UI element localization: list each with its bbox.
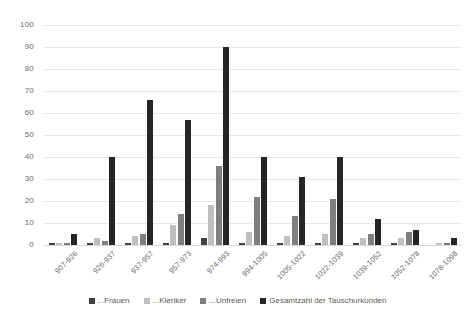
bar bbox=[353, 243, 359, 245]
bar bbox=[87, 243, 93, 245]
y-axis-tick-label: 10 bbox=[25, 219, 34, 227]
bars-layer bbox=[44, 25, 462, 245]
bar bbox=[254, 197, 260, 245]
bar bbox=[299, 177, 305, 245]
y-axis: 0102030405060708090100 bbox=[0, 25, 40, 245]
x-axis-tick-label: 1078-1098 bbox=[427, 249, 459, 281]
bar bbox=[216, 166, 222, 245]
x-axis-tick-label: 1005-1022 bbox=[275, 249, 307, 281]
bar bbox=[261, 157, 267, 245]
bar bbox=[147, 100, 153, 245]
bar bbox=[125, 243, 131, 245]
bar bbox=[239, 243, 245, 245]
bar bbox=[71, 234, 77, 245]
bar bbox=[368, 234, 374, 245]
bar bbox=[201, 238, 207, 245]
x-axis: 907-926926-937937-957957-973974-993994-1… bbox=[44, 246, 462, 294]
bar-group bbox=[201, 25, 229, 245]
bar bbox=[109, 157, 115, 245]
y-axis-tick-label: 40 bbox=[25, 153, 34, 161]
bar bbox=[102, 241, 108, 245]
y-axis-tick-label: 100 bbox=[20, 21, 34, 29]
y-axis-tick-label: 60 bbox=[25, 109, 34, 117]
y-axis-tick-label: 0 bbox=[29, 241, 34, 249]
legend-swatch-icon bbox=[260, 298, 266, 304]
bar bbox=[64, 243, 70, 245]
bar bbox=[451, 238, 457, 245]
bar bbox=[185, 120, 191, 245]
bar bbox=[277, 243, 283, 245]
bar bbox=[375, 219, 381, 245]
legend-label: ...Frauen bbox=[98, 296, 130, 305]
x-axis-tick-label: 994-1005 bbox=[240, 249, 269, 278]
bar-group bbox=[49, 25, 77, 245]
x-axis-tick-label: 1039-1052 bbox=[351, 249, 383, 281]
bar bbox=[444, 243, 450, 245]
bar bbox=[292, 216, 298, 245]
bar bbox=[284, 236, 290, 245]
bar bbox=[398, 238, 404, 245]
bar-group bbox=[277, 25, 305, 245]
bar-group bbox=[315, 25, 343, 245]
bar bbox=[208, 205, 214, 245]
legend-label: ...Kleriker bbox=[153, 296, 187, 305]
bar-group bbox=[353, 25, 381, 245]
x-axis-tick-label: 974-993 bbox=[205, 249, 231, 275]
bar bbox=[406, 232, 412, 245]
bar bbox=[132, 236, 138, 245]
bar bbox=[322, 234, 328, 245]
legend-swatch-icon bbox=[89, 298, 95, 304]
bar-group bbox=[391, 25, 419, 245]
bar-chart: 0102030405060708090100 907-926926-937937… bbox=[0, 0, 475, 321]
y-axis-tick-label: 70 bbox=[25, 87, 34, 95]
legend-label: Gesamtzahl der Tauschurkunden bbox=[269, 296, 386, 305]
x-axis-tick-label: 1022-1039 bbox=[313, 249, 345, 281]
legend-item[interactable]: Gesamtzahl der Tauschurkunden bbox=[260, 296, 386, 305]
plot-area bbox=[44, 25, 462, 245]
bar-group bbox=[429, 25, 457, 245]
bar bbox=[178, 214, 184, 245]
bar bbox=[163, 243, 169, 245]
y-axis-tick-label: 50 bbox=[25, 131, 34, 139]
y-axis-tick-label: 80 bbox=[25, 65, 34, 73]
bar bbox=[56, 243, 62, 245]
legend-item[interactable]: ...Unfreien bbox=[200, 296, 246, 305]
bar bbox=[170, 225, 176, 245]
bar bbox=[246, 232, 252, 245]
x-axis-tick-label: 957-973 bbox=[167, 249, 193, 275]
bar bbox=[223, 47, 229, 245]
bar-group bbox=[87, 25, 115, 245]
x-axis-tick-label: 926-937 bbox=[91, 249, 117, 275]
legend-swatch-icon bbox=[200, 298, 206, 304]
y-axis-tick-label: 30 bbox=[25, 175, 34, 183]
chart-legend: ...Frauen...Kleriker...UnfreienGesamtzah… bbox=[0, 296, 475, 305]
legend-swatch-icon bbox=[144, 298, 150, 304]
legend-item[interactable]: ...Kleriker bbox=[144, 296, 187, 305]
x-axis-tick-label: 1052-1078 bbox=[389, 249, 421, 281]
y-axis-tick-label: 20 bbox=[25, 197, 34, 205]
bar bbox=[315, 243, 321, 245]
bar bbox=[140, 234, 146, 245]
bar bbox=[413, 230, 419, 245]
bar bbox=[94, 238, 100, 245]
legend-item[interactable]: ...Frauen bbox=[89, 296, 130, 305]
bar bbox=[330, 199, 336, 245]
bar-group bbox=[163, 25, 191, 245]
x-axis-tick-label: 937-957 bbox=[129, 249, 155, 275]
bar-group bbox=[125, 25, 153, 245]
legend-label: ...Unfreien bbox=[209, 296, 246, 305]
bar bbox=[391, 243, 397, 245]
bar bbox=[360, 238, 366, 245]
x-axis-tick-label: 907-926 bbox=[53, 249, 79, 275]
bar bbox=[49, 243, 55, 245]
y-axis-tick-label: 90 bbox=[25, 43, 34, 51]
bar bbox=[436, 243, 442, 245]
bar bbox=[337, 157, 343, 245]
bar-group bbox=[239, 25, 267, 245]
